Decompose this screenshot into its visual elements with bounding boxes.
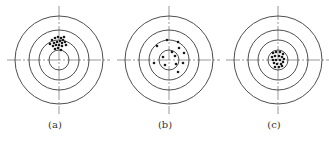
shot-dot [64, 41, 67, 44]
panel-label-c: (c) [219, 119, 329, 130]
target-panel-a: (a) [0, 0, 110, 142]
shot-dot [272, 59, 275, 62]
shot-dot [178, 47, 181, 50]
shot-dot [56, 41, 59, 44]
shot-dot [49, 43, 52, 46]
shot-dot [57, 36, 60, 39]
shot-dot [274, 66, 277, 69]
shot-dot [182, 62, 185, 65]
shot-dot [63, 36, 66, 39]
shot-dot [54, 37, 57, 40]
shot-dot [162, 56, 165, 59]
shot-dot [276, 63, 279, 66]
shot-dot [55, 44, 58, 47]
shot-dot [51, 39, 54, 42]
shot-dot [177, 41, 180, 44]
shot-dot [57, 47, 60, 50]
shot-dot [281, 56, 284, 59]
panel-label-b: (b) [110, 119, 220, 130]
shot-dot [62, 39, 65, 42]
panel-label-a: (a) [0, 119, 110, 130]
shot-dot [281, 65, 284, 68]
shot-dot [271, 56, 274, 59]
shot-dot [275, 59, 278, 62]
shot-dot [177, 71, 180, 74]
shot-dot [156, 45, 159, 48]
shot-dot [183, 52, 186, 55]
shot-dot [59, 40, 62, 43]
shot-dot [52, 45, 55, 48]
shot-dot [273, 62, 276, 65]
shot-dot [153, 62, 156, 65]
shot-dot [272, 52, 275, 55]
shot-dot [279, 59, 282, 62]
shot-dot [61, 45, 64, 48]
shot-dot [58, 44, 61, 47]
shot-dot [53, 42, 56, 45]
shot-dot [60, 49, 63, 52]
shot-dot [175, 63, 178, 66]
shot-dot [278, 55, 281, 58]
shot-dot [174, 55, 177, 58]
shot-dot [54, 48, 57, 51]
shot-dot [61, 42, 64, 45]
shot-dot [65, 44, 68, 47]
shot-dot [283, 58, 286, 61]
shot-dot [171, 51, 174, 54]
shot-dot [275, 51, 278, 54]
shot-dot [164, 64, 167, 67]
shot-dot [282, 53, 285, 56]
shot-dot [282, 61, 285, 64]
shot-dot [274, 55, 277, 58]
shot-dot [278, 66, 281, 69]
target-panel-b: (b) [110, 0, 220, 142]
shot-dot [279, 51, 282, 54]
shot-dot [60, 37, 63, 40]
target-panel-c: (c) [219, 0, 329, 142]
shot-dot [166, 39, 169, 42]
